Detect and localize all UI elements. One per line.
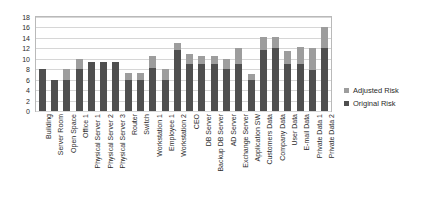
bar-segment-original-risk[interactable] xyxy=(248,80,255,111)
y-axis-tick-label: 14 xyxy=(22,34,30,41)
x-axis-tick-label: Physical Server 1 xyxy=(94,114,101,168)
x-axis-tick-label: Exchange Server xyxy=(242,114,249,168)
y-axis-tick-label: 6 xyxy=(26,76,30,83)
bar-segment-original-risk[interactable] xyxy=(149,68,156,111)
bar-segment-original-risk[interactable] xyxy=(223,69,230,111)
bar-segment-adjusted-risk[interactable] xyxy=(211,56,218,64)
bar-segment-adjusted-risk[interactable] xyxy=(309,48,316,70)
x-axis-labels: BuildingServer RoomOpen SpaceOffice 1Phy… xyxy=(36,114,331,200)
bar-segment-adjusted-risk[interactable] xyxy=(125,73,132,80)
x-axis-tick-label: AD Server xyxy=(230,114,237,146)
bar-segment-adjusted-risk[interactable] xyxy=(284,51,291,64)
x-axis-tick-label: Company Data xyxy=(279,114,286,161)
legend-swatch-icon xyxy=(344,101,349,106)
x-axis-tick-label: Application SW xyxy=(254,114,261,161)
bar-segment-original-risk[interactable] xyxy=(137,80,144,111)
x-axis-tick-label: Private Data 2 xyxy=(328,114,335,158)
bar-segment-adjusted-risk[interactable] xyxy=(198,56,205,64)
bar-segment-original-risk[interactable] xyxy=(162,80,169,111)
bar-segment-adjusted-risk[interactable] xyxy=(149,56,156,67)
legend-item[interactable]: Original Risk xyxy=(344,99,428,108)
bar-segment-original-risk[interactable] xyxy=(260,50,267,111)
y-axis-tick-label: 16 xyxy=(22,24,30,31)
bar-segment-adjusted-risk[interactable] xyxy=(63,69,70,79)
x-axis-tick-label: CEO xyxy=(193,114,200,129)
x-axis-tick-label: Building xyxy=(45,114,52,139)
y-axis-tick-label: 18 xyxy=(22,14,30,21)
bar-segment-adjusted-risk[interactable] xyxy=(162,69,169,79)
x-axis-tick-label: Office 1 xyxy=(82,114,89,138)
bar-segment-adjusted-risk[interactable] xyxy=(186,54,193,64)
bar-segment-original-risk[interactable] xyxy=(51,80,58,111)
x-axis-tick-label: Open Space xyxy=(70,114,77,153)
y-axis-tick-label: 0 xyxy=(26,108,30,115)
chart-legend: Adjusted RiskOriginal Risk xyxy=(344,86,428,112)
bar-segment-original-risk[interactable] xyxy=(272,48,279,111)
bar-segment-original-risk[interactable] xyxy=(309,70,316,111)
gridline xyxy=(36,111,331,112)
x-axis-tick-label: User Data xyxy=(291,114,298,146)
y-axis-tick-label: 4 xyxy=(26,87,30,94)
bar-segment-original-risk[interactable] xyxy=(112,62,119,111)
bar-segment-original-risk[interactable] xyxy=(63,80,70,111)
x-axis-tick-label: Workstation 2 xyxy=(180,114,187,157)
bar-segment-original-risk[interactable] xyxy=(125,80,132,111)
x-axis-tick-label: Workstation 1 xyxy=(156,114,163,157)
bar-segment-adjusted-risk[interactable] xyxy=(260,37,267,50)
bar-segment-original-risk[interactable] xyxy=(198,64,205,111)
x-axis-tick-label: Private Data 1 xyxy=(316,114,323,158)
bar-segment-adjusted-risk[interactable] xyxy=(174,43,181,50)
x-axis-tick-label: Physical Server 3 xyxy=(119,114,126,168)
bar-segment-adjusted-risk[interactable] xyxy=(248,74,255,79)
bar-segment-adjusted-risk[interactable] xyxy=(76,59,83,69)
x-axis-tick-label: Employee 1 xyxy=(168,114,175,151)
y-axis-tick-label: 12 xyxy=(22,45,30,52)
x-axis-tick-label: Switch xyxy=(143,114,150,135)
y-axis-tick-label: 10 xyxy=(22,55,30,62)
bar-segment-adjusted-risk[interactable] xyxy=(235,48,242,64)
legend-item-label: Adjusted Risk xyxy=(353,87,399,95)
bar-segment-original-risk[interactable] xyxy=(235,64,242,111)
bar-segment-adjusted-risk[interactable] xyxy=(321,27,328,48)
bar-segment-original-risk[interactable] xyxy=(39,69,46,111)
bar-segment-original-risk[interactable] xyxy=(100,62,107,111)
bar-segment-adjusted-risk[interactable] xyxy=(223,59,230,69)
bar-segment-original-risk[interactable] xyxy=(88,62,95,111)
x-axis-tick-label: DB Server xyxy=(205,114,212,146)
legend-swatch-icon xyxy=(344,88,349,93)
x-axis-tick-label: Server Room xyxy=(57,114,64,155)
x-axis-tick-label: Backup DB Server xyxy=(217,114,224,172)
risk-bar-chart: 024681012141618 BuildingServer RoomOpen … xyxy=(0,0,429,202)
bar-segment-original-risk[interactable] xyxy=(174,50,181,111)
legend-item[interactable]: Adjusted Risk xyxy=(344,86,428,95)
legend-item-label: Original Risk xyxy=(353,100,396,108)
y-axis: 024681012141618 xyxy=(0,16,33,112)
x-axis-tick-label: Physical Server 2 xyxy=(107,114,114,168)
bar-segment-original-risk[interactable] xyxy=(284,64,291,111)
bar-segment-original-risk[interactable] xyxy=(186,64,193,111)
y-axis-tick-label: 2 xyxy=(26,97,30,104)
bar-segment-original-risk[interactable] xyxy=(321,48,328,111)
bar-segment-adjusted-risk[interactable] xyxy=(297,47,304,64)
x-axis-tick-label: Router xyxy=(131,114,138,135)
y-axis-tick-label: 8 xyxy=(26,66,30,73)
bar-segment-original-risk[interactable] xyxy=(211,64,218,111)
bar-segment-adjusted-risk[interactable] xyxy=(137,73,144,80)
x-axis-tick-label: E-mail Data xyxy=(303,114,310,151)
bar-segment-original-risk[interactable] xyxy=(76,69,83,111)
bar-segment-original-risk[interactable] xyxy=(297,64,304,111)
bar-series-container xyxy=(36,17,331,111)
x-axis-tick-label: Customers Data xyxy=(266,114,273,165)
bar-segment-adjusted-risk[interactable] xyxy=(272,37,279,48)
